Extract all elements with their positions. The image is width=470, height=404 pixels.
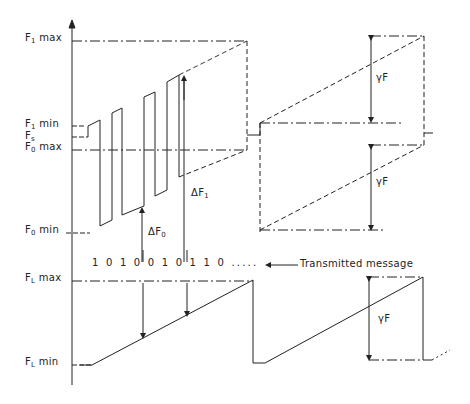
axis-arrow-icon (69, 20, 75, 28)
label-gamma-f-middle: γF (376, 176, 388, 187)
transmitted-bits: 1 0 1 0 0 1 0 1 1 0 ..... (92, 257, 258, 268)
label-gamma-f-lower: γF (378, 313, 390, 324)
transmitted-message-label: Transmitted message (300, 258, 413, 269)
fsk-chirp-diagram (0, 0, 470, 404)
label-f0-max: F0 max (25, 141, 62, 154)
label-f0-min: F0 min (25, 224, 59, 237)
label-delta-f1: ΔF1 (191, 187, 209, 200)
label-fl-max: FL max (25, 272, 61, 285)
fs-start-step (86, 120, 100, 137)
label-fl-min: FL min (25, 356, 59, 369)
label-f1-max: F1 max (25, 32, 62, 45)
label-delta-f0: ΔF0 (148, 226, 166, 239)
label-gamma-f-upper: γF (376, 72, 388, 83)
